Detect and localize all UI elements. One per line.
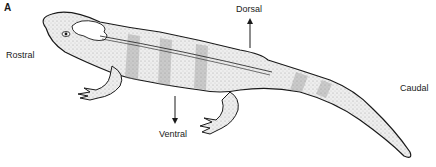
dorsal-arrow — [247, 18, 253, 48]
label-dorsal: Dorsal — [236, 4, 262, 14]
front-leg — [78, 66, 122, 100]
eye — [62, 32, 70, 37]
label-ventral: Ventral — [159, 129, 187, 139]
label-rostral: Rostral — [6, 50, 35, 60]
salamander-illustration — [0, 0, 436, 167]
label-caudal: Caudal — [400, 83, 429, 93]
ventral-arrow — [172, 96, 178, 124]
hind-leg — [200, 92, 238, 134]
